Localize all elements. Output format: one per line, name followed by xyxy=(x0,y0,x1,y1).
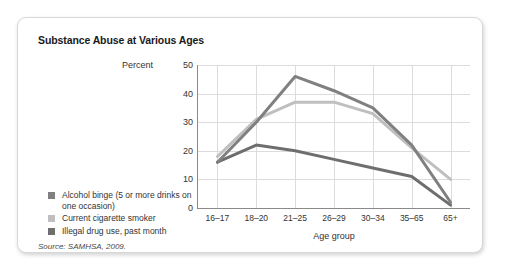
y-axis-tick-label: 30 xyxy=(183,117,198,127)
x-axis-tick-label: 26–29 xyxy=(322,213,346,223)
series-line xyxy=(217,76,450,202)
series-line xyxy=(217,102,450,179)
legend-item: Alcohol binge (5 or more drinks on one o… xyxy=(48,190,198,211)
legend-swatch-icon xyxy=(48,228,55,235)
y-axis-tick-label: 20 xyxy=(183,146,198,156)
legend-swatch-icon xyxy=(48,192,55,199)
x-axis-tick-label: 21–25 xyxy=(283,213,307,223)
plot-area: 01020304050 16–1718–2021–2526–2930–3435–… xyxy=(198,65,470,208)
legend-item: Current cigarette smoker xyxy=(48,213,198,224)
legend-item-label: Alcohol binge (5 or more drinks on one o… xyxy=(62,190,191,211)
x-axis-tick-label: 30–34 xyxy=(361,213,385,223)
chart-card: Substance Abuse at Various Ages Percent … xyxy=(17,17,483,253)
screenshot-root: Substance Abuse at Various Ages Percent … xyxy=(0,0,505,276)
y-axis-label: Percent xyxy=(122,60,153,70)
source-note: Source: SAMHSA, 2009. xyxy=(38,242,126,251)
x-axis-tick-label: 35–65 xyxy=(400,213,424,223)
series-layer xyxy=(198,65,470,208)
legend-item-label: Current cigarette smoker xyxy=(62,213,156,223)
legend-swatch-icon xyxy=(48,215,55,222)
x-axis-line xyxy=(197,208,470,209)
y-axis-tick-label: 50 xyxy=(183,60,198,70)
y-axis-tick-label: 40 xyxy=(183,89,198,99)
x-axis-tick-label: 18–20 xyxy=(244,213,268,223)
y-axis-tick-label: 10 xyxy=(183,174,198,184)
x-axis-tick-label: 65+ xyxy=(443,213,457,223)
legend-item-label: Illegal drug use, past month xyxy=(62,226,166,236)
chart-legend: Alcohol binge (5 or more drinks on one o… xyxy=(48,190,198,238)
legend-item: Illegal drug use, past month xyxy=(48,226,198,237)
series-line xyxy=(217,145,450,205)
x-axis-tick-label: 16–17 xyxy=(206,213,230,223)
chart-title: Substance Abuse at Various Ages xyxy=(38,34,204,46)
x-axis-label: Age group xyxy=(198,231,470,241)
